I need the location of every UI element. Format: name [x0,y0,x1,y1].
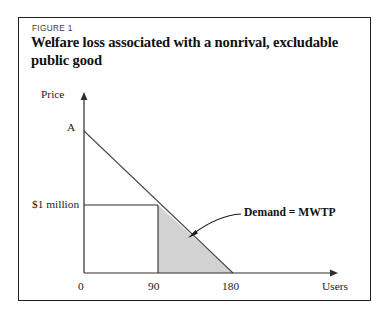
x-axis-tick-90: 90 [148,280,159,292]
figure-container: FIGURE 1 Welfare loss associated with a … [18,17,371,301]
y-axis-title: Price [41,88,64,100]
x-axis-title: Users [322,280,348,292]
x-axis-tick-180: 180 [222,280,239,292]
chart-plot-area: Price A $1 million 0 90 180 Users Demand… [19,18,371,301]
x-axis-arrowhead [330,270,338,277]
demand-callout-arrow [193,214,241,234]
y-axis-arrowhead [81,92,88,100]
demand-curve-label: Demand = MWTP [244,206,336,219]
chart-svg [19,18,371,301]
x-axis-tick-0: 0 [78,280,84,292]
y-axis-tick-price: $1 million [32,198,79,210]
demand-intercept-label: A [67,121,75,133]
